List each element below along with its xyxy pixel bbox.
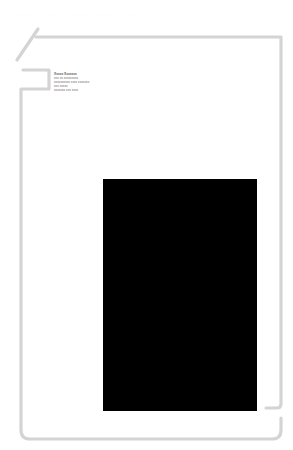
frame-diagonal: [17, 29, 38, 60]
contact-line-4: xxxxxxx xxx xxxx: [54, 88, 98, 92]
contact-block: Xxxxx Xxxxxxx xxx xx xxxxxxxxx xxxxxxxxx…: [54, 72, 98, 92]
header-faint-text: · · · · · · · · · · · · · · · · · · · · …: [4, 13, 289, 19]
photo-placeholder: [103, 179, 257, 411]
